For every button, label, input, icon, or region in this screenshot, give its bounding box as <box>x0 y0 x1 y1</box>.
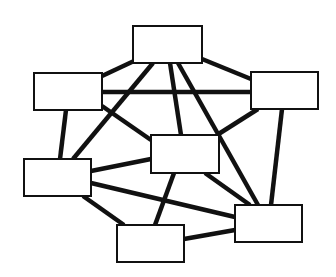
edge-left-bottom-to-center <box>91 159 151 171</box>
edge-left-top-to-left-bottom <box>60 110 66 159</box>
edge-top-to-center <box>170 63 181 135</box>
diagram-canvas <box>0 0 336 277</box>
edge-left-top-to-center <box>102 106 151 140</box>
node-box <box>235 205 302 242</box>
node-left-bottom <box>24 159 91 196</box>
network-diagram <box>0 0 336 277</box>
node-center <box>151 135 219 173</box>
node-box <box>133 26 202 63</box>
node-right-bottom <box>235 205 302 242</box>
node-bottom-center <box>117 225 184 262</box>
edge-top-to-left-top <box>102 61 134 76</box>
node-box <box>34 73 102 110</box>
edge-right-top-to-center <box>217 109 258 135</box>
nodes-layer <box>24 26 318 262</box>
node-right-top <box>251 72 318 109</box>
node-top <box>133 26 202 63</box>
edge-right-top-to-right-bottom <box>271 109 282 205</box>
node-box <box>251 72 318 109</box>
node-box <box>151 135 219 173</box>
edge-top-to-right-top <box>202 59 251 79</box>
edge-left-bottom-to-bottom-center <box>83 196 124 225</box>
node-box <box>24 159 91 196</box>
node-left-top <box>34 73 102 110</box>
node-box <box>117 225 184 262</box>
edge-bottom-center-to-right-bottom <box>184 230 235 239</box>
